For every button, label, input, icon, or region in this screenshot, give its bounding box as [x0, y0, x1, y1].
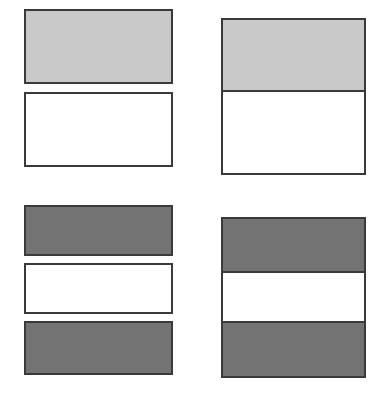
band-light-upper	[24, 9, 173, 84]
band-dark-upper	[24, 205, 173, 256]
band-dark-lower	[223, 321, 364, 376]
band-dark-upper	[223, 219, 364, 271]
band-white-lower	[223, 90, 364, 173]
band-dark-lower	[24, 321, 173, 375]
band-white-middle	[223, 271, 364, 322]
band-light-upper	[223, 20, 364, 90]
band-white-middle	[24, 263, 173, 314]
diagram-canvas	[0, 0, 389, 396]
panel-top-right	[221, 18, 366, 175]
band-white-lower	[24, 92, 173, 167]
panel-bottom-right	[221, 217, 366, 378]
